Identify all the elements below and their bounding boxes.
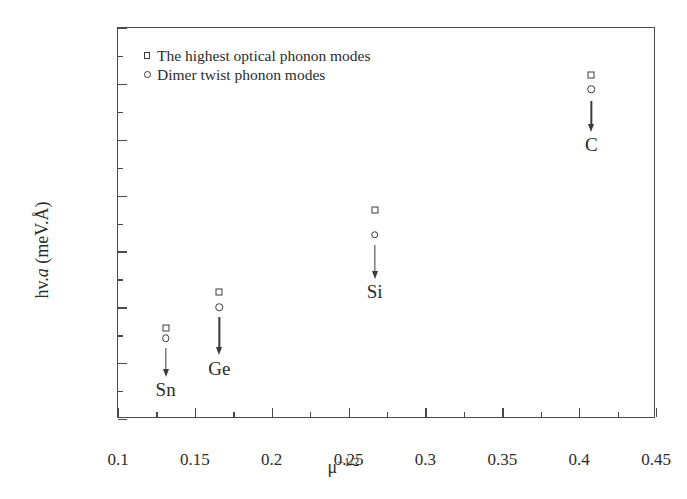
x-tick-major bbox=[502, 408, 503, 417]
annotation-arrow-head-Ge bbox=[216, 347, 222, 355]
x-tick-minor bbox=[541, 412, 542, 417]
x-tick-minor bbox=[156, 412, 157, 417]
x-tick-major bbox=[349, 408, 350, 417]
x-tick-major bbox=[579, 408, 580, 417]
y-tick-minor bbox=[118, 335, 123, 336]
y-tick-minor bbox=[118, 168, 123, 169]
x-tick-minor bbox=[464, 412, 465, 417]
element-label-Si: Si bbox=[367, 282, 383, 301]
annotation-arrow-line-Si bbox=[374, 245, 375, 272]
marker-shape bbox=[144, 52, 151, 59]
data-point-circle-Sn bbox=[162, 334, 170, 342]
x-tick-minor bbox=[233, 412, 234, 417]
element-label-C: C bbox=[585, 135, 598, 154]
x-tick-label: 0.45 bbox=[641, 451, 671, 468]
annotation-arrow-head-Si bbox=[372, 271, 378, 279]
data-point-circle-Ge bbox=[216, 304, 224, 312]
x-tick-label: 0.35 bbox=[487, 451, 517, 468]
phonon-mode-scatter-figure: hv.a (meV.Å) μ−1/2 010020030040050060070… bbox=[0, 0, 687, 499]
data-point-circle-C bbox=[588, 86, 596, 94]
legend: The highest optical phonon modesDimer tw… bbox=[140, 46, 371, 84]
y-axis-title-prefix: hv. bbox=[32, 277, 52, 298]
y-tick-major bbox=[118, 84, 127, 85]
x-tick-label: 0.2 bbox=[261, 451, 282, 468]
x-tick-major bbox=[656, 408, 657, 417]
y-tick-major bbox=[118, 363, 127, 364]
y-tick-major bbox=[118, 196, 127, 197]
marker-shape bbox=[144, 71, 151, 78]
y-tick-minor bbox=[118, 112, 123, 113]
x-tick-label: 0.4 bbox=[569, 451, 590, 468]
annotation-arrow-line-Sn bbox=[165, 348, 166, 371]
legend-item-1: Dimer twist phonon modes bbox=[140, 65, 371, 84]
y-tick-minor bbox=[118, 279, 123, 280]
y-tick-major bbox=[118, 140, 127, 141]
legend-item-label: The highest optical phonon modes bbox=[157, 47, 371, 65]
element-label-Ge: Ge bbox=[208, 359, 230, 378]
x-tick-label: 0.25 bbox=[334, 451, 364, 468]
x-tick-major bbox=[272, 408, 273, 417]
y-axis-title-italic: a bbox=[32, 268, 52, 277]
annotation-arrow-line-C bbox=[591, 101, 592, 125]
x-tick-label: 0.1 bbox=[107, 451, 128, 468]
y-tick-minor bbox=[118, 56, 123, 57]
y-axis-title-suffix: (meV.Å) bbox=[32, 201, 52, 268]
data-point-square-Ge bbox=[216, 288, 223, 295]
x-tick-minor bbox=[618, 412, 619, 417]
y-tick-minor bbox=[118, 224, 123, 225]
element-label-Sn: Sn bbox=[156, 380, 176, 399]
annotation-arrow-head-Sn bbox=[163, 369, 169, 377]
x-tick-label: 0.3 bbox=[415, 451, 436, 468]
legend-item-label: Dimer twist phonon modes bbox=[157, 66, 325, 84]
legend-item-0: The highest optical phonon modes bbox=[140, 46, 371, 65]
data-point-circle-Si bbox=[371, 231, 379, 239]
y-tick-minor bbox=[118, 391, 123, 392]
x-tick-minor bbox=[310, 412, 311, 417]
data-point-square-Si bbox=[371, 206, 378, 213]
y-tick-major bbox=[118, 307, 127, 308]
y-axis-title: hv.a (meV.Å) bbox=[32, 201, 53, 298]
x-tick-major bbox=[425, 408, 426, 417]
legend-square-marker-icon bbox=[140, 52, 154, 59]
data-point-square-C bbox=[588, 72, 595, 79]
y-tick-major bbox=[118, 28, 127, 29]
annotation-arrow-line-Ge bbox=[219, 317, 220, 348]
data-point-square-Sn bbox=[162, 324, 169, 331]
y-tick-major bbox=[118, 419, 127, 420]
y-tick-major bbox=[118, 251, 127, 252]
x-tick-label: 0.15 bbox=[180, 451, 210, 468]
legend-circle-marker-icon bbox=[140, 71, 154, 78]
plot-area: 0100200300400500600700 0.10.150.20.250.3… bbox=[117, 27, 655, 418]
annotation-arrow-head-C bbox=[588, 124, 594, 132]
x-tick-minor bbox=[387, 412, 388, 417]
x-tick-major bbox=[118, 408, 119, 417]
x-tick-major bbox=[195, 408, 196, 417]
